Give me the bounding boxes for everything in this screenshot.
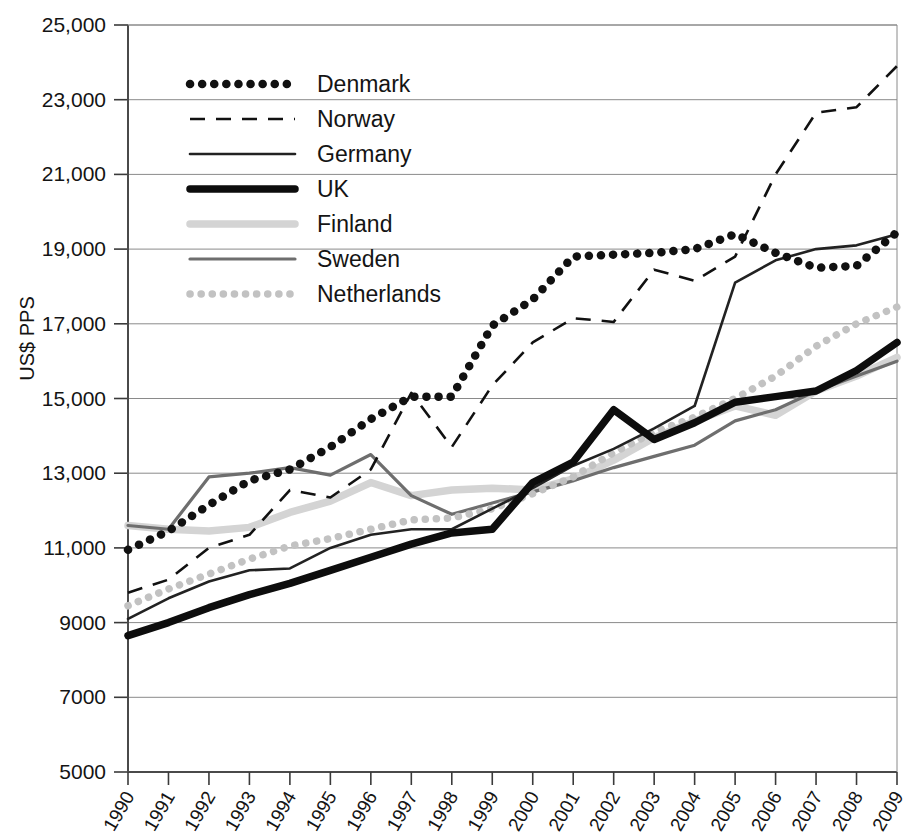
series-line-netherlands (128, 307, 897, 606)
y-axis-title: US$ PPS (16, 296, 38, 380)
series-group (128, 66, 897, 636)
legend: DenmarkNorwayGermanyUKFinlandSwedenNethe… (190, 71, 441, 307)
x-axis-tick-label: 2001 (544, 788, 583, 835)
legend-label-netherlands: Netherlands (317, 281, 441, 307)
legend-label-sweden: Sweden (317, 246, 400, 272)
legend-label-finland: Finland (317, 211, 392, 237)
x-axis-tick-label: 1997 (382, 788, 421, 835)
series-line-norway (128, 66, 897, 593)
x-axis-tick-label: 2002 (585, 788, 624, 835)
x-axis-tick-label: 2006 (747, 788, 786, 835)
x-axis-tick-label: 1994 (261, 787, 301, 834)
legend-label-uk: UK (317, 176, 350, 202)
x-axis: 1990199119921993199419951996199719981999… (99, 772, 907, 835)
line-chart-canvas: 50007000900011,00013,00015,00017,00019,0… (0, 0, 909, 840)
x-axis-tick-label: 2009 (868, 788, 907, 835)
x-axis-tick-label: 1996 (342, 788, 381, 835)
y-axis-tick-label: 15,000 (42, 387, 106, 410)
x-axis-tick-label: 1995 (302, 788, 341, 835)
x-axis-tick-label: 2004 (666, 787, 706, 834)
y-axis-tick-label: 11,000 (43, 536, 106, 559)
x-axis-tick-label: 2000 (504, 788, 543, 835)
x-axis-tick-label: 1998 (423, 788, 462, 835)
y-axis-tick-label: 19,000 (42, 237, 106, 260)
chart-figure: 50007000900011,00013,00015,00017,00019,0… (0, 0, 909, 840)
y-axis-tick-label: 7000 (59, 685, 106, 708)
x-axis-tick-label: 2008 (828, 788, 867, 835)
x-axis-tick-label: 1990 (99, 788, 138, 835)
x-axis-tick-label: 2007 (787, 788, 826, 835)
legend-label-germany: Germany (317, 141, 412, 167)
y-axis-tick-label: 5000 (59, 760, 106, 783)
legend-label-denmark: Denmark (317, 71, 411, 97)
x-axis-tick-label: 1993 (221, 788, 260, 835)
x-axis-tick-label: 2003 (625, 788, 664, 835)
y-axis-tick-label: 23,000 (42, 88, 106, 111)
x-axis-tick-label: 1992 (180, 788, 219, 835)
y-axis-tick-label: 17,000 (42, 312, 106, 335)
y-axis-tick-label: 21,000 (42, 162, 106, 185)
legend-label-norway: Norway (317, 106, 395, 132)
y-axis-tick-label: 25,000 (42, 13, 106, 36)
x-axis-tick-label: 1999 (463, 788, 502, 835)
y-axis-tick-label: 9000 (59, 611, 106, 634)
x-axis-tick-label: 1991 (140, 788, 179, 835)
y-axis-tick-label: 13,000 (42, 461, 106, 484)
x-axis-tick-label: 2005 (706, 788, 745, 835)
